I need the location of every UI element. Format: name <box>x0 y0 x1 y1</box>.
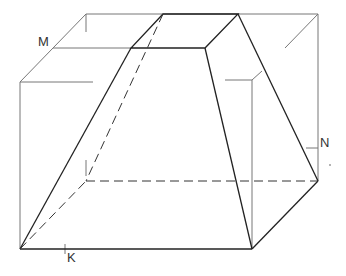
box-top-right-depth-edge <box>285 14 318 48</box>
frustum-in-box-diagram: M N K <box>0 0 346 276</box>
outer-box <box>20 14 318 254</box>
frustum-top-face <box>131 14 238 48</box>
label-N: N <box>320 135 329 150</box>
label-M: M <box>38 34 49 49</box>
label-K: K <box>67 250 76 265</box>
frustum-edge-back-left-hidden <box>86 14 163 181</box>
stray-dot <box>329 164 331 166</box>
frustum-base-right-edge <box>252 181 318 249</box>
frustum-edge-front-right <box>205 48 252 249</box>
frustum-base-left-edge-hidden <box>20 181 86 249</box>
frustum <box>20 14 318 249</box>
frustum-edge-back-right <box>238 14 318 181</box>
box-top-right-depth-stub <box>252 71 262 80</box>
frustum-edge-front-left <box>20 48 131 249</box>
